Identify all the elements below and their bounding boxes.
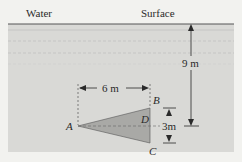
water-label: Water	[26, 7, 52, 19]
depth-label: 9 m	[182, 57, 199, 69]
point-b-label: B	[153, 94, 160, 106]
surface-label: Surface	[141, 7, 175, 19]
point-d-label: D	[140, 113, 149, 125]
point-a-label: A	[65, 120, 73, 132]
diagram: Water Surface 9 m 6 m 3m A B C D	[0, 0, 242, 162]
point-c-label: C	[149, 145, 157, 157]
width-label: 6 m	[102, 82, 119, 94]
height-label: 3m	[162, 120, 177, 132]
